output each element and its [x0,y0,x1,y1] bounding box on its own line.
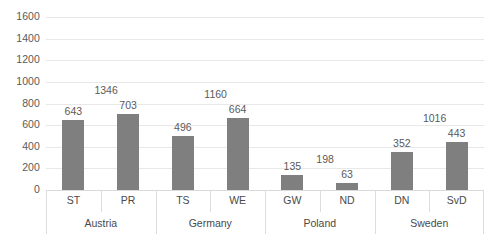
gridline [46,125,484,126]
y-axis-tick-label: 1400 [0,32,40,44]
x-axis-separator [375,190,376,212]
x-axis-group-separator [375,212,376,234]
x-axis-category-label: GW [283,194,301,206]
x-axis-group-separator [483,212,484,234]
y-axis-tick-label: 600 [0,118,40,130]
y-axis-tick-label: 1600 [0,10,40,22]
bar-chart: 16001400120010008006004002000 6437031346… [0,0,490,243]
bar-nd[interactable] [336,183,358,190]
bar-value-label: 703 [119,99,137,111]
x-axis-group-label: Germany [189,217,232,229]
x-axis-group-separator [156,212,157,234]
bar-we[interactable] [227,118,249,190]
gridline [46,82,484,83]
bar-secondary-value-label: 1346 [94,84,117,96]
y-axis-tick-label: 1200 [0,53,40,65]
bar-value-label: 643 [65,105,83,117]
bar-value-label: 496 [174,121,192,133]
y-axis-tick-label: 800 [0,97,40,109]
bar-value-label: 443 [448,127,466,139]
gridline [46,39,484,40]
x-axis-separator [265,190,266,212]
x-axis-group-separator [265,212,266,234]
bar-ts[interactable] [172,136,194,190]
bar-value-label: 63 [341,168,353,180]
x-axis-separator [429,190,430,212]
x-axis: STPRTSWEGWNDDNSvDAustriaGermanyPolandSwe… [46,190,484,243]
x-axis-group-label: Austria [84,217,117,229]
x-axis-group-label: Sweden [410,217,448,229]
x-axis-separator [320,190,321,212]
gridline [46,60,484,61]
x-axis-category-label: WE [229,194,246,206]
x-axis-separator [483,190,484,212]
bar-value-label: 135 [284,160,302,172]
y-axis-tick-label: 200 [0,161,40,173]
bar-secondary-value-label: 1160 [204,88,227,100]
bar-gw[interactable] [281,175,303,190]
x-axis-separator [46,190,47,212]
x-axis-category-label: TS [176,194,189,206]
y-axis-tick-label: 400 [0,140,40,152]
bar-st[interactable] [62,120,84,190]
gridline [46,17,484,18]
x-axis-category-label: DN [394,194,409,206]
bar-value-label: 664 [229,103,247,115]
x-axis-category-label: SvD [447,194,467,206]
y-axis-tick-label: 0 [0,183,40,195]
x-axis-separator [101,190,102,212]
gridline [46,104,484,105]
bar-dn[interactable] [391,152,413,190]
x-axis-separator [156,190,157,212]
x-axis-group-separator [46,212,47,234]
bar-pr[interactable] [117,114,139,190]
bar-value-label: 352 [393,137,411,149]
x-axis-category-label: PR [121,194,136,206]
x-axis-separator [210,190,211,212]
plot-area: 64370313464966641160135631983524431016 [46,17,484,190]
x-axis-category-label: ND [340,194,355,206]
x-axis-group-label: Poland [303,217,336,229]
y-axis-tick-label: 1000 [0,75,40,87]
gridline [46,147,484,148]
gridline [46,168,484,169]
bar-secondary-value-label: 1016 [423,112,446,124]
bar-svd[interactable] [446,142,468,190]
x-axis-category-label: ST [67,194,80,206]
bar-secondary-value-label: 198 [316,153,334,165]
